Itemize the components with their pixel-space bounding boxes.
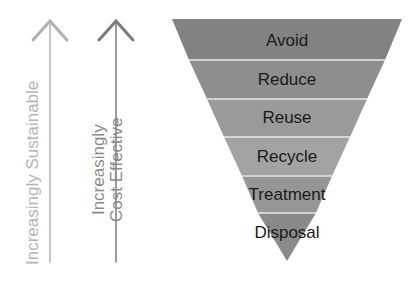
label-cost-line1: Increasingly xyxy=(90,117,108,222)
tier-recycle: Recycle xyxy=(172,147,402,167)
label-cost-line2: Cost Effective xyxy=(108,117,126,222)
label-increasingly-sustainable: Increasingly Sustainable xyxy=(24,81,42,265)
label-increasingly-cost-effective: Increasingly Cost Effective xyxy=(90,117,126,222)
tier-treatment: Treatment xyxy=(172,185,402,205)
tier-avoid: Avoid xyxy=(172,31,402,51)
tier-reuse: Reuse xyxy=(172,108,402,128)
tier-reduce: Reduce xyxy=(172,70,402,90)
tier-disposal: Disposal xyxy=(172,223,402,243)
